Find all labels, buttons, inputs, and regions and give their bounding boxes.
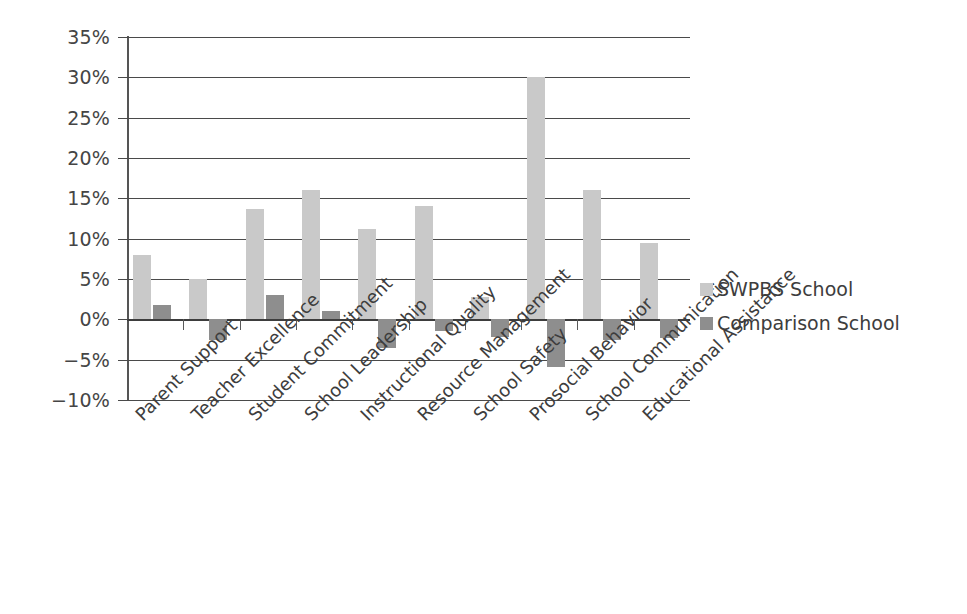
bar-swpbs xyxy=(133,255,151,320)
bar-chart: 35%30%25%20%15%10%5%0%−5%−10% Parent Sup… xyxy=(0,0,967,614)
legend-label: Comparison School xyxy=(717,312,900,334)
y-tick-label: 30% xyxy=(67,66,110,88)
bar-swpbs xyxy=(583,190,601,319)
legend: SWPBS SchoolComparison School xyxy=(700,272,950,340)
legend-item: SWPBS School xyxy=(700,272,950,306)
legend-item: Comparison School xyxy=(700,306,950,340)
y-tick-label: −10% xyxy=(51,389,110,411)
y-tick-label: 10% xyxy=(67,228,110,250)
y-tick-label: 5% xyxy=(79,268,110,290)
bar-swpbs xyxy=(246,209,264,320)
x-axis-labels: Parent SupportTeacher ExcellenceStudent … xyxy=(127,400,690,600)
x-tick-mark xyxy=(183,319,184,330)
legend-label: SWPBS School xyxy=(717,278,853,300)
legend-swatch-icon xyxy=(700,283,713,296)
legend-swatch-icon xyxy=(700,317,713,330)
x-tick-mark xyxy=(577,319,578,330)
bar-swpbs xyxy=(189,279,207,319)
bar-group xyxy=(127,37,183,400)
y-tick-label: 15% xyxy=(67,187,110,209)
bar-comparison xyxy=(153,305,171,320)
y-axis: 35%30%25%20%15%10%5%0%−5%−10% xyxy=(28,0,120,614)
y-tick-label: 20% xyxy=(67,147,110,169)
y-tick-label: −5% xyxy=(63,349,110,371)
y-tick-label: 25% xyxy=(67,107,110,129)
y-tick-label: 0% xyxy=(79,308,110,330)
y-tick-label: 35% xyxy=(67,26,110,48)
